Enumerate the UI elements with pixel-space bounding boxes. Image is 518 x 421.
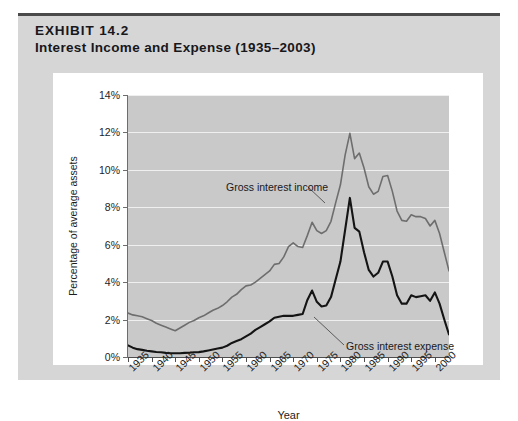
income-series-annotation: Gross interest income [226,181,328,193]
y-axis-tick [123,132,128,133]
y-axis-label: 4% [105,276,120,288]
gridline [128,170,449,171]
y-axis-tick [123,207,128,208]
gridline [128,320,449,321]
y-axis-tick [123,282,128,283]
exhibit-card: EXHIBIT 14.2 Interest Income and Expense… [18,13,500,380]
exhibit-title: Interest Income and Expense (1935–2003) [35,39,475,56]
expense-series-annotation: Gross interest expense [346,340,454,352]
y-axis-line [127,95,128,357]
y-axis-tick [123,245,128,246]
y-axis-tick [123,320,128,321]
y-axis-label: 6% [105,239,120,251]
gridline [128,207,449,208]
y-axis-label: 8% [105,201,120,213]
gridline [128,245,449,246]
exhibit-top-rule [18,13,500,16]
chart-panel: Percentage of average assets 0%2%4%6%8%1… [53,73,483,365]
expense-series-line [128,198,449,353]
plot-area [128,95,449,357]
y-axis-tick [123,170,128,171]
gridline [128,95,449,96]
income-series-line [128,133,449,330]
y-axis-label: 2% [105,314,120,326]
gridline [128,132,449,133]
gridline [128,282,449,283]
y-axis-label: 12% [99,126,120,138]
y-axis-label: 14% [99,89,120,101]
y-axis-title: Percentage of average assets [67,95,81,357]
y-axis-label: 10% [99,164,120,176]
exhibit-header: EXHIBIT 14.2 Interest Income and Expense… [35,22,475,56]
y-axis-tick [123,95,128,96]
y-axis-label: 0% [105,351,120,363]
plot-frame: 0%2%4%6%8%10%12%14% 19351940194519501955… [128,95,449,357]
x-axis-title: Year [128,409,449,421]
series-lines [128,95,449,357]
exhibit-number: EXHIBIT 14.2 [35,22,475,39]
